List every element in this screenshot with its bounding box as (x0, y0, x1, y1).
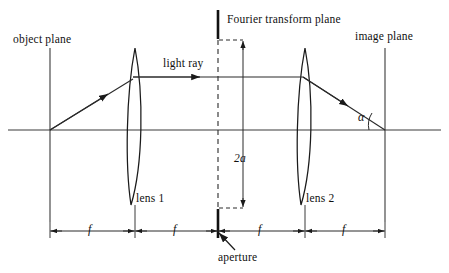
dimension-label-f-4: f (342, 222, 346, 237)
ray-segment-lens2-to-image (303, 77, 385, 130)
lens-1-shape (127, 48, 141, 205)
optical-system-diagram: object plane Fourier transform plane ima… (0, 0, 449, 273)
light-ray-label: light ray (163, 57, 203, 69)
lens-2-shape (297, 48, 311, 205)
dimension-label-f-2: f (173, 222, 177, 237)
aperture-label: aperture (218, 251, 257, 263)
angle-alpha-label: α (358, 110, 365, 125)
aperture-size-label: 2a (234, 152, 246, 164)
dimension-label-f-1: f (88, 222, 92, 237)
aperture-callout-arrow (219, 233, 235, 250)
lens-1-label: lens 1 (136, 192, 164, 204)
aperture-height-arrow (219, 40, 243, 208)
image-plane-label: image plane (355, 30, 413, 42)
dimension-label-f-3: f (258, 222, 262, 237)
object-plane-label: object plane (13, 33, 71, 45)
ray-segment-object-to-lens1 (50, 79, 133, 130)
lens-2-label: lens 2 (306, 192, 334, 204)
fourier-plane-label: Fourier transform plane (227, 13, 341, 25)
